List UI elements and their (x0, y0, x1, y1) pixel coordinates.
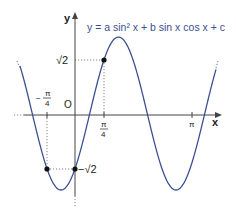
x-tick-pi4-den: 4 (101, 130, 106, 139)
x-tick-pi4-label: π 4 (100, 120, 108, 139)
x-tick-negpi4-num: π (45, 89, 51, 98)
sine-curve (20, 37, 216, 190)
y-tick-negsqrt2-label: −√2 (78, 163, 97, 175)
function-graph: y x O y = a sin² x + b sin x cos x + c √… (0, 0, 236, 212)
equation-label: y = a sin² x + b sin x cos x + c (87, 21, 225, 33)
y-tick-sqrt2-label: √2 (56, 54, 68, 66)
x-tick-pi-label: π (189, 120, 195, 129)
x-axis-label: x (212, 116, 219, 128)
x-tick-negpi4-den: 4 (45, 99, 50, 108)
point-pi4-sqrt2 (101, 57, 106, 62)
point-0-negsqrt2 (72, 166, 77, 171)
x-tick-negpi4-label: − π 4 (36, 89, 51, 108)
point-negpi4-negsqrt2 (44, 166, 49, 171)
curve-left-dotted-end (17, 61, 20, 68)
curve-right-dotted-end (216, 61, 218, 68)
origin-label: O (64, 99, 72, 110)
y-axis-arrow-icon (72, 12, 78, 19)
y-axis-label: y (64, 12, 71, 24)
x-tick-pi4-num: π (101, 120, 107, 129)
x-tick-negpi4-sign: − (36, 94, 41, 103)
guide-lines (14, 60, 218, 208)
